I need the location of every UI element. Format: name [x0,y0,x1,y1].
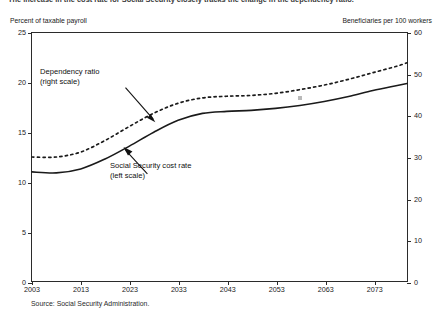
y-axis-tick [28,233,32,234]
dependency-ratio-annotation-line2: (right scale) [40,77,100,87]
y2-axis-tick [407,241,411,242]
cost-rate-annotation-line1: Social Security cost rate [110,161,191,171]
x-axis-tick-label: 2003 [24,286,40,294]
y2-axis-tick-label: 50 [414,71,422,79]
chart-caption: The increase in the cost rate for Social… [8,0,432,4]
x-axis-tick-label: 2023 [122,286,138,294]
y2-axis-tick-label: 60 [414,29,422,37]
cost-rate-annotation: Social Security cost rate (left scale) [110,161,191,180]
right-axis-title: Beneficiaries per 100 workers [342,17,432,25]
y2-axis-tick-label: 0 [414,279,418,287]
dependency-arrow [126,88,156,123]
y-axis-tick-label: 20 [18,79,26,87]
x-axis-tick-label: 2053 [269,286,285,294]
y2-axis-tick [407,33,411,34]
source-note: Source: Social Security Administration. [31,300,149,307]
y2-axis-tick [407,75,411,76]
y2-axis-tick [407,116,411,117]
y-axis-tick-label: 5 [22,229,26,237]
x-axis-tick-label: 2033 [171,286,187,294]
y-axis-tick [28,83,32,84]
x-axis-tick-label: 2073 [367,286,383,294]
y2-axis-tick-label: 20 [414,196,422,204]
plot-area: Dependency ratio (right scale) Social Se… [31,32,408,282]
y-axis-tick [28,133,32,134]
y2-axis-tick [407,283,411,284]
y-axis-tick [28,183,32,184]
y2-axis-tick-label: 10 [414,237,422,245]
y2-axis-tick [407,200,411,201]
y-axis-tick-label: 10 [18,179,26,187]
x-axis-tick-label: 2013 [73,286,89,294]
cost-rate-annotation-line2: (left scale) [110,171,191,181]
x-axis-tick-label: 2063 [318,286,334,294]
x-axis-tick-label: 2043 [220,286,236,294]
y2-axis-tick [407,158,411,159]
image-artifact-speck [298,96,302,100]
y-axis-tick-label: 15 [18,129,26,137]
y2-axis-tick-label: 30 [414,154,422,162]
left-axis-title: Percent of taxable payroll [10,17,87,25]
dependency-ratio-annotation: Dependency ratio (right scale) [40,67,100,86]
y-axis-tick [28,33,32,34]
y-axis-tick-label: 25 [18,29,26,37]
y2-axis-tick-label: 40 [414,112,422,120]
dependency-ratio-annotation-line1: Dependency ratio [40,67,100,77]
